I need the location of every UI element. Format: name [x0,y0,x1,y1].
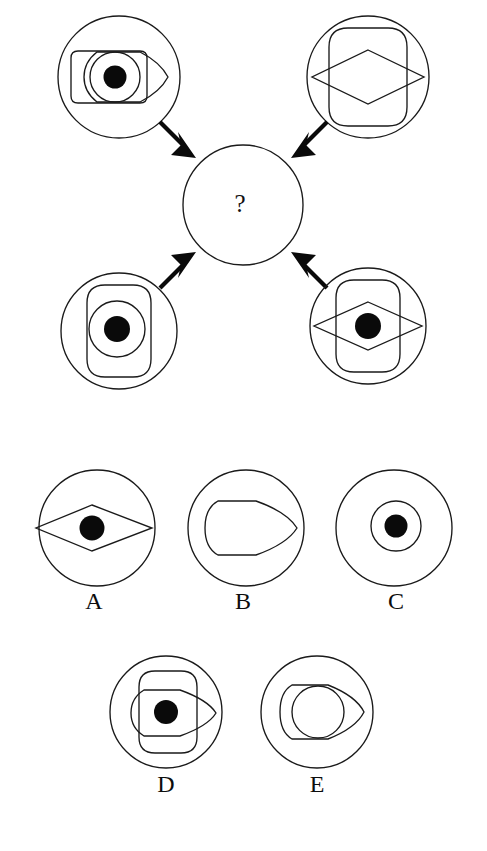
bullet-right-shape [205,501,297,555]
option-label-E: E [310,771,325,797]
outer-circle [261,656,373,768]
option-B[interactable]: B [188,470,304,614]
inner-circle [292,686,344,738]
arrow-top-right-to-center [291,122,327,158]
black-dot [154,700,178,724]
option-A[interactable]: A [36,470,155,614]
black-dot [104,316,130,342]
option-C[interactable]: C [336,470,452,614]
arrow-bottom-left-to-center [160,252,196,288]
puzzle-canvas: ? [0,0,487,851]
option-E[interactable]: E [261,656,373,797]
arrow-bottom-right-to-center [291,252,327,288]
puzzle-root: ? [0,0,487,851]
rounded-rectangle-vertical [329,28,407,126]
option-label-C: C [388,588,404,614]
black-dot [355,313,381,339]
question-mark: ? [234,190,245,217]
option-label-B: B [235,588,251,614]
arrow-top-left-to-center [160,122,196,158]
arrow-shaft [303,264,327,288]
center-question-circle: ? [183,145,303,265]
arrow-shaft [160,264,184,288]
outer-circle [307,16,429,138]
option-label-D: D [157,771,174,797]
option-D[interactable]: D [110,656,222,797]
stimulus-top-left [58,16,180,138]
option-label-A: A [85,588,103,614]
arrow-shaft [303,122,327,146]
black-dot [104,66,127,89]
stimulus-top-right [307,16,429,138]
arrow-shaft [160,122,184,146]
black-dot [385,515,408,538]
black-dot [80,516,105,541]
stimulus-bottom-left [61,273,177,389]
stimulus-bottom-right [310,268,426,384]
